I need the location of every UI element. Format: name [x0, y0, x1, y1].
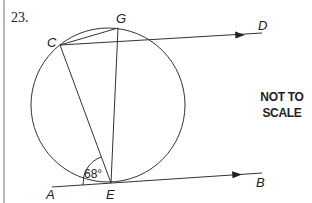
label-a: A	[45, 187, 55, 202]
not-to-scale-note: NOT TO SCALE	[254, 89, 310, 121]
label-b: B	[256, 175, 265, 190]
diagram-frame: 23. C G D E A B 68° NOT TO SCALE	[0, 0, 312, 203]
line-cd	[60, 33, 262, 45]
label-d: D	[258, 18, 267, 33]
arrow-cd-icon	[235, 32, 245, 39]
label-c: C	[47, 35, 57, 50]
arrow-eb-icon	[232, 171, 242, 178]
label-g: G	[116, 11, 126, 26]
note-line-1: NOT TO	[254, 89, 310, 105]
label-e: E	[106, 187, 115, 202]
note-line-2: SCALE	[254, 105, 310, 121]
circle	[31, 28, 185, 182]
angle-label: 68°	[84, 167, 102, 181]
chord-ge	[111, 28, 118, 183]
chord-ce	[60, 45, 111, 183]
